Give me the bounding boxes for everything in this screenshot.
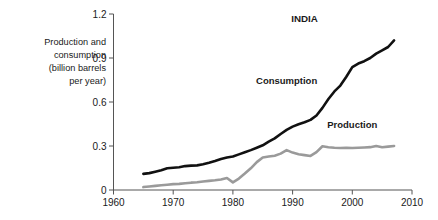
y-tick-label: 0 bbox=[101, 185, 107, 196]
x-tick-label: 2000 bbox=[341, 197, 364, 208]
x-tick-label: 2010 bbox=[401, 197, 424, 208]
y-axis-title-line-2: consumption bbox=[2, 49, 106, 62]
data-series-group bbox=[143, 40, 394, 187]
x-axis: 196019701980199020002010 bbox=[102, 190, 423, 208]
y-tick-label: 1.2 bbox=[93, 9, 107, 20]
x-tick-label: 1960 bbox=[102, 197, 125, 208]
series-line-consumption bbox=[143, 40, 394, 173]
x-tick-label: 1980 bbox=[222, 197, 245, 208]
series-label-consumption: Consumption bbox=[256, 75, 317, 86]
y-tick-label: 0.3 bbox=[93, 141, 107, 152]
x-tick-label: 1990 bbox=[281, 197, 304, 208]
chart-title: INDIA bbox=[291, 13, 318, 24]
series-label-group: ConsumptionProduction bbox=[256, 75, 378, 130]
y-axis-title-line-4: per year) bbox=[2, 75, 106, 88]
line-chart-plot: 00.30.60.91.2 196019701980199020002010 C… bbox=[0, 0, 438, 220]
y-tick-label: 0.6 bbox=[93, 97, 107, 108]
x-axis-ticks: 196019701980199020002010 bbox=[102, 190, 423, 208]
y-axis-title-line-3: (billion barrels bbox=[2, 62, 106, 75]
x-tick-label: 1970 bbox=[162, 197, 185, 208]
series-label-production: Production bbox=[327, 119, 377, 130]
y-axis-title-line-1: Production and bbox=[2, 36, 106, 49]
chart-figure: Production and consumption (billion barr… bbox=[0, 0, 438, 220]
y-axis-title: Production and consumption (billion barr… bbox=[2, 36, 106, 88]
